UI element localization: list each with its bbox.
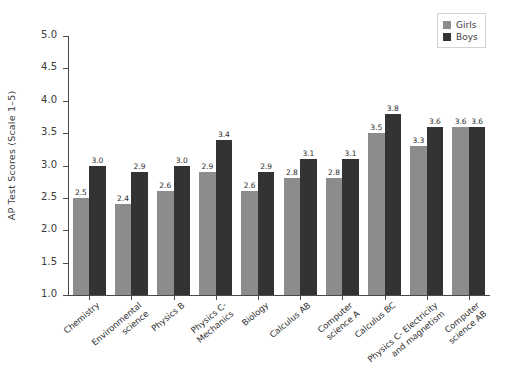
bar-value-label: 3.4 [213,130,236,139]
bar-girls [241,191,258,295]
bar-value-label: 2.9 [255,162,278,171]
bar-value-label: 3.0 [171,156,194,165]
y-axis-tick: 4.0 [6,101,68,102]
y-axis-tick-label: 3.0 [41,159,57,170]
x-axis-tick-mark [342,295,343,300]
bar-value-label: 3.6 [424,117,447,126]
bar-girls [326,178,343,295]
bar-boys [174,166,191,296]
bar-girls [157,191,174,295]
y-axis-tick: 1.5 [6,263,68,264]
bar-boys [131,172,148,295]
bar-girls [73,198,90,295]
x-axis-tick-mark [427,295,428,300]
y-axis-tick-label: 4.5 [41,61,57,72]
legend-entry-girls[interactable]: Girls [443,19,478,30]
chart-legend: GirlsBoys [437,13,486,48]
y-axis-tick-mark [63,101,68,102]
bar-value-label: 3.1 [297,149,320,158]
bar-boys [89,166,106,296]
y-axis-tick-label: 1.5 [41,256,57,267]
y-axis-tick-label: 4.0 [41,94,57,105]
bar-girls [368,133,385,295]
x-axis-tick-mark [216,295,217,300]
y-axis-tick: 2.0 [6,230,68,231]
bar-girls [410,146,427,295]
y-axis-tick-mark [63,36,68,37]
y-axis-tick-mark [63,68,68,69]
y-axis-tick-mark [63,133,68,134]
y-axis-tick: 4.5 [6,68,68,69]
y-axis-tick: 3.5 [6,133,68,134]
y-axis-tick-mark [63,198,68,199]
y-axis-tick: 3.0 [6,166,68,167]
y-axis-tick-label: 3.5 [41,126,57,137]
y-axis-tick-mark [63,230,68,231]
x-axis-tick-mark [174,295,175,300]
bar-boys [258,172,275,295]
x-axis-tick-mark [258,295,259,300]
legend-swatch-icon [443,21,451,29]
x-axis-tick-mark [385,295,386,300]
bar-boys [469,127,486,295]
y-axis-tick: 1.0 [6,295,68,296]
plot-area: 5.04.54.03.53.02.52.01.51.0 2.53.02.42.9… [68,36,490,295]
bar-girls [284,178,301,295]
y-axis-tick-label: 1.0 [41,288,57,299]
y-axis-tick-mark [63,295,68,296]
bar-boys [216,140,233,295]
y-axis-tick: 2.5 [6,198,68,199]
bar-value-label: 3.1 [339,149,362,158]
chart-figure: AP Test Scores (Scale 1–5) 5.04.54.03.53… [0,0,518,387]
bar-girls [115,204,132,295]
y-axis-line [68,36,69,295]
y-axis-title-text: AP Test Scores (Scale 1–5) [7,90,18,220]
bar-value-label: 3.0 [86,156,109,165]
bar-boys [342,159,359,295]
bar-boys [300,159,317,295]
legend-entry-label: Boys [456,32,478,42]
legend-swatch-icon [443,33,451,41]
legend-entry-boys[interactable]: Boys [443,31,478,42]
x-axis-tick-mark [89,295,90,300]
bar-boys [385,114,402,295]
y-axis-tick-label: 2.5 [41,191,57,202]
y-axis-tick-mark [63,263,68,264]
bar-value-label: 3.8 [382,104,405,113]
legend-entry-label: Girls [456,20,476,30]
bar-value-label: 2.9 [128,162,151,171]
x-axis-tick-mark [300,295,301,300]
y-axis-tick-label: 2.0 [41,223,57,234]
bar-boys [427,127,444,295]
bar-girls [452,127,469,295]
bar-girls [199,172,216,295]
y-axis-tick: 5.0 [6,36,68,37]
y-axis-tick-label: 5.0 [41,29,57,40]
y-axis-tick-mark [63,166,68,167]
x-axis-tick-mark [131,295,132,300]
x-axis-tick-mark [469,295,470,300]
bar-value-label: 3.6 [466,117,489,126]
